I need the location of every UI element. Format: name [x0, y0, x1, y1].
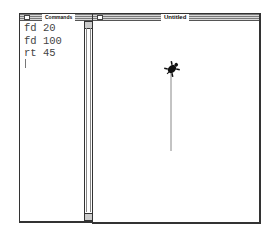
graphics-window-title: Untitled: [161, 14, 189, 21]
vertical-scrollbar[interactable]: [84, 21, 92, 221]
turtle-icon: [163, 59, 182, 78]
turtle-canvas[interactable]: [93, 21, 260, 223]
text-cursor: [25, 59, 26, 68]
scroll-down-arrow-icon[interactable]: [85, 213, 92, 221]
graphics-title-bar[interactable]: Untitled: [93, 14, 259, 21]
commands-window-title: Commands: [42, 14, 75, 21]
scroll-track[interactable]: [86, 28, 91, 212]
commands-text-area[interactable]: fd 20 fd 100 rt 45: [24, 22, 62, 60]
graphics-window: Untitled: [92, 13, 261, 224]
close-box-icon[interactable]: [24, 15, 30, 20]
close-box-icon[interactable]: [97, 15, 103, 20]
commands-window: Commands fd 20 fd 100 rt 45: [19, 13, 93, 223]
commands-title-bar[interactable]: Commands: [20, 14, 92, 21]
